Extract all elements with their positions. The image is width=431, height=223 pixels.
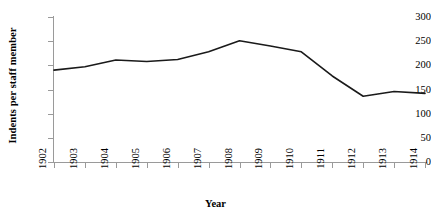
x-axis-tick-label-text: 1911 [315, 148, 327, 182]
y-axis-tick [48, 114, 53, 115]
x-axis-tick [54, 163, 55, 168]
y-axis-line [53, 16, 54, 163]
y-axis-tick [48, 17, 53, 18]
x-axis-title: Year [0, 198, 431, 209]
x-axis-tick-label-text: 1906 [161, 148, 173, 182]
x-axis-tick-label-text: 1914 [408, 148, 420, 182]
y-axis-title-text: Indents per staff member [7, 27, 18, 143]
x-axis-tick-label-text: 1905 [130, 148, 142, 182]
line-chart-figure: Indents per staff member 050100150200250… [0, 0, 431, 223]
x-axis-tick [116, 163, 117, 168]
x-axis-tick [394, 163, 395, 168]
y-axis-tick-label: 150 [387, 85, 431, 96]
x-axis-tick-label-text: 1913 [377, 148, 389, 182]
x-axis-tick-label-text: 1904 [99, 148, 111, 182]
x-axis-title-text: Year [205, 198, 226, 209]
x-axis-tick-label-text: 1908 [223, 148, 235, 182]
y-axis-tick-label: 200 [387, 60, 431, 71]
x-axis-tick-label-text: 1903 [68, 148, 80, 182]
x-axis-tick [147, 163, 148, 168]
x-axis-tick-label-text: 1910 [284, 148, 296, 182]
y-axis-tick [48, 65, 53, 66]
x-axis-tick-label-text: 1912 [346, 148, 358, 182]
x-axis-tick [178, 163, 179, 168]
x-axis-tick-label-text: 1902 [37, 148, 49, 182]
x-axis-tick-label-text: 1907 [192, 148, 204, 182]
y-axis-tick-label: 50 [387, 133, 431, 144]
x-axis-tick [209, 163, 210, 168]
y-axis-tick-label: 300 [387, 12, 431, 23]
x-axis-tick [270, 163, 271, 168]
x-axis-tick-label-text: 1909 [253, 148, 265, 182]
x-axis-tick [363, 163, 364, 168]
y-axis-title: Indents per staff member [0, 0, 24, 170]
y-axis-tick [48, 138, 53, 139]
x-axis-tick [85, 163, 86, 168]
y-axis-tick [48, 90, 53, 91]
x-axis-tick [425, 163, 426, 168]
y-axis-tick [48, 41, 53, 42]
x-axis-tick [301, 163, 302, 168]
x-axis-tick [332, 163, 333, 168]
y-axis-tick-label: 250 [387, 36, 431, 47]
y-axis-tick-label: 100 [387, 109, 431, 120]
x-axis-tick [240, 163, 241, 168]
